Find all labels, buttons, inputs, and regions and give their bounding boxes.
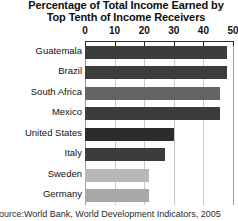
chart-title: Percentage of Total Income Earned by Top…: [18, 0, 234, 23]
chart-title-line-2: Top Tenth of Income Receivers: [18, 12, 234, 24]
chart-title-line-1: Percentage of Total Income Earned by: [18, 0, 234, 12]
bar-germany: [85, 189, 149, 202]
bar-series: [85, 42, 233, 205]
bar-italy: [85, 148, 165, 161]
x-axis-tick-label-10: 10: [109, 25, 120, 36]
x-axis-tick-label-50: 50: [227, 25, 238, 36]
bar-row: [85, 63, 233, 84]
category-label-mexico: Mexico: [0, 106, 82, 117]
x-axis-tick-label-40: 40: [198, 25, 209, 36]
category-label-sweden: Sweden: [0, 168, 82, 179]
category-label-united-states: United States: [0, 127, 82, 138]
income-distribution-bar-chart: Percentage of Total Income Earned by Top…: [0, 0, 238, 221]
bar-sweden: [85, 169, 149, 182]
plot-area: [85, 41, 233, 205]
bar-united-states: [85, 128, 174, 141]
x-axis-tick-labels: 01020304050: [0, 25, 238, 38]
source-note: Source:World Bank, World Development Ind…: [0, 209, 238, 219]
bar-row: [85, 166, 233, 187]
bar-row: [85, 186, 233, 207]
bar-brazil: [85, 66, 227, 79]
category-label-brazil: Brazil: [0, 65, 82, 76]
bar-mexico: [85, 107, 220, 120]
bar-row: [85, 125, 233, 146]
bar-row: [85, 145, 233, 166]
bar-south-africa: [85, 87, 220, 100]
bar-guatemala: [85, 46, 227, 59]
x-axis-tick-label-0: 0: [82, 25, 88, 36]
x-axis-tick-label-20: 20: [139, 25, 150, 36]
x-axis-tick-label-30: 30: [168, 25, 179, 36]
category-label-italy: Italy: [0, 147, 82, 158]
category-label-south-africa: South Africa: [0, 86, 82, 97]
gridline-50: [233, 42, 234, 205]
bar-row: [85, 84, 233, 105]
category-label-germany: Germany: [0, 188, 82, 199]
bar-row: [85, 43, 233, 64]
y-axis-category-labels: GuatemalaBrazilSouth AfricaMexicoUnited …: [0, 41, 82, 205]
tickmark-50: [233, 41, 234, 46]
bar-row: [85, 104, 233, 125]
category-label-guatemala: Guatemala: [0, 45, 82, 56]
